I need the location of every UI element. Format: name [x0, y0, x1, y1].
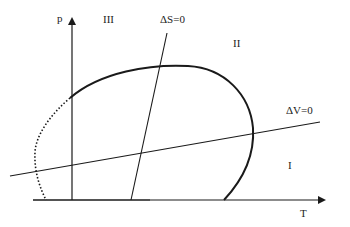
delta-v-label: ΔV=0 [286, 104, 313, 116]
region-3-label: III [103, 13, 114, 25]
region-1-label: I [288, 159, 292, 171]
phase-diagram: p III ΔS=0 II ΔV=0 I T [0, 0, 350, 227]
delta-v-zero-line [10, 122, 320, 176]
delta-s-label: ΔS=0 [160, 13, 185, 25]
phase-boundary-solid [70, 66, 253, 200]
delta-s-zero-line [131, 33, 167, 200]
p-axis-label: p [57, 12, 63, 24]
t-axis-label: T [300, 207, 307, 219]
phase-boundary-dotted [35, 98, 70, 200]
region-2-label: II [233, 37, 241, 49]
